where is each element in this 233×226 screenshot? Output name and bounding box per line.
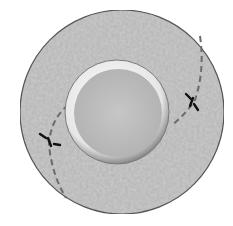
cross-section-diagram xyxy=(0,0,233,226)
inner-disc xyxy=(74,69,162,157)
